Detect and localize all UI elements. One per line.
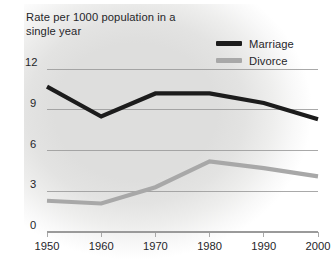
x-axis-label-1980: 1980 bbox=[190, 240, 230, 252]
x-axis-tick-marks bbox=[47, 232, 318, 237]
x-axis-label-1990: 1990 bbox=[244, 240, 284, 252]
series-line-marriage bbox=[47, 87, 318, 120]
series-line-divorce bbox=[47, 161, 318, 203]
x-axis-label-1970: 1970 bbox=[135, 240, 175, 252]
x-axis-label-1960: 1960 bbox=[81, 240, 121, 252]
y-axis-label-12: 12 bbox=[25, 56, 37, 68]
x-axis-label-2000: 2000 bbox=[298, 240, 335, 252]
y-axis-label-0: 0 bbox=[30, 219, 36, 231]
y-axis-label-9: 9 bbox=[30, 97, 36, 109]
data-series-lines bbox=[47, 87, 318, 204]
x-axis-label-1950: 1950 bbox=[27, 240, 67, 252]
y-axis-label-6: 6 bbox=[30, 138, 36, 150]
y-axis-label-3: 3 bbox=[30, 178, 36, 190]
